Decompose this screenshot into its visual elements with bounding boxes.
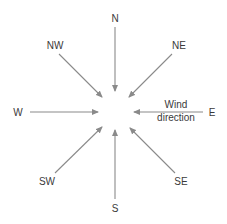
direction-n: N xyxy=(111,13,118,91)
arrow-ne-icon xyxy=(129,54,172,97)
arrow-sw-icon xyxy=(55,127,102,173)
direction-se: SE xyxy=(130,128,188,187)
direction-ne: NE xyxy=(129,40,186,97)
direction-sw: SW xyxy=(39,127,102,187)
label-sw: SW xyxy=(39,176,56,187)
label-se: SE xyxy=(174,176,188,187)
wind-direction-label-line1: Wind xyxy=(165,99,188,110)
direction-s: S xyxy=(112,130,119,214)
label-ne: NE xyxy=(172,40,186,51)
label-e: E xyxy=(209,107,216,118)
arrow-se-icon xyxy=(130,128,175,173)
arrow-nw-icon xyxy=(59,54,102,97)
wind-direction-diagram: N NE E Wind direction SE S SW W NW xyxy=(0,0,227,224)
direction-w: W xyxy=(13,107,98,118)
direction-e: E Wind direction xyxy=(134,99,216,123)
label-nw: NW xyxy=(47,40,64,51)
label-w: W xyxy=(13,107,23,118)
label-s: S xyxy=(112,203,119,214)
direction-nw: NW xyxy=(47,40,102,97)
wind-direction-label-line2: direction xyxy=(157,112,195,123)
label-n: N xyxy=(111,13,118,24)
